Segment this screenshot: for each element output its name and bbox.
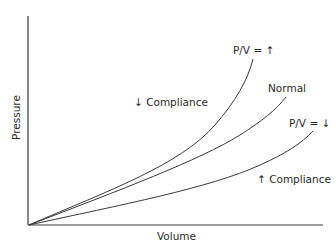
x-axis-label: Volume [157,230,196,242]
annotation-decreased-compliance: ↓ Compliance [134,96,208,108]
label-normal: Normal [268,82,306,94]
y-axis-label: Pressure [10,95,22,140]
label-pv-increased: P/V = ↑ [233,44,274,56]
label-pv-decreased: P/V = ↓ [289,117,330,129]
annotation-increased-compliance: ↑ Compliance [257,173,331,185]
pressure-volume-diagram: P/V = ↑ Normal P/V = ↓ ↓ Compliance ↑ Co… [0,0,335,249]
curve-normal [29,97,286,225]
